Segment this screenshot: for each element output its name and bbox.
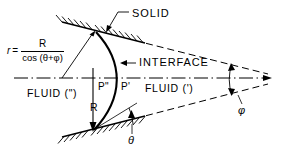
radius-R-label: R <box>90 102 98 113</box>
theta-label: θ <box>128 135 134 146</box>
solid-label: SOLID <box>132 8 170 19</box>
radius-r-construction <box>62 31 96 79</box>
fluid-prime-label: FLUID (') <box>145 83 194 94</box>
phi-label: φ <box>238 105 246 116</box>
r-line-arrowhead <box>90 31 96 37</box>
formula-lhs: r <box>7 45 10 56</box>
phi-arrowhead-bottom <box>228 88 235 96</box>
interface-label: INTERFACE <box>139 57 209 68</box>
formula-numerator: R <box>33 39 52 51</box>
upper-wall-hatching <box>56 15 143 43</box>
theta-arrowhead <box>128 110 135 118</box>
phi-arrowhead-top <box>228 63 235 71</box>
pressure-double-prime-label: P" <box>98 82 109 92</box>
interface-leader-group <box>120 60 136 66</box>
r-line-upper <box>62 33 93 78</box>
formula-equals: = <box>12 45 18 56</box>
formula-fraction: R cos (θ+φ) <box>21 39 64 62</box>
formula-block: r = R cos (θ+φ) <box>7 39 64 62</box>
interface-leader-arrowhead <box>120 60 127 66</box>
figure-root: SOLID INTERFACE FLUID (") FLUID (') P" P… <box>0 0 286 154</box>
phi-leader <box>238 95 242 104</box>
pressure-prime-label: P' <box>121 82 130 92</box>
centerline-arrowhead <box>263 75 272 81</box>
formula-denominator: cos (θ+φ) <box>21 52 64 63</box>
phi-angle-group <box>228 63 242 104</box>
diagram-canvas <box>0 0 286 154</box>
solid-leader-group <box>106 12 129 33</box>
solid-leader-arrowhead <box>106 25 112 33</box>
fluid-double-prime-label: FLUID (") <box>27 88 77 99</box>
solid-leader-line <box>108 12 129 29</box>
